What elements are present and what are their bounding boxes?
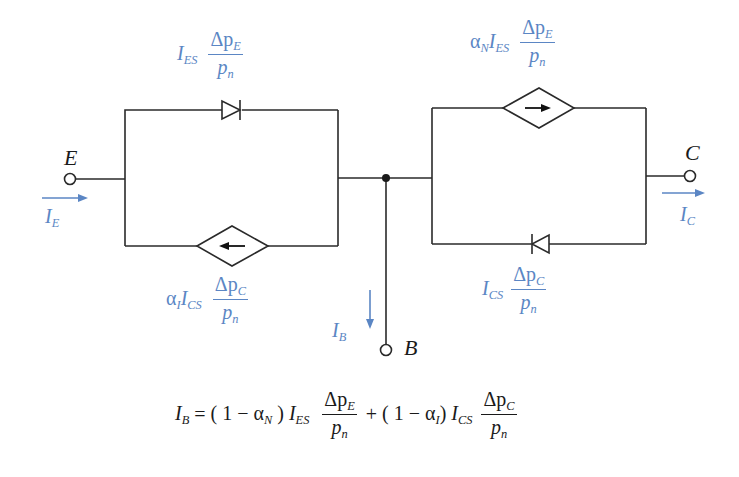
collector-diode-icon [532, 234, 549, 254]
base-terminal[interactable] [381, 345, 392, 356]
emitter-current-label: IE [45, 206, 59, 230]
base-label: B [404, 337, 417, 359]
emitter-source-label: αIICS ΔpC pn [166, 273, 248, 327]
emitter-dependent-source-icon [197, 226, 268, 266]
collector-current-arrow-icon [662, 189, 705, 197]
emitter-diode-label: IES ΔpE pn [177, 28, 243, 82]
emitter-terminal[interactable] [65, 174, 76, 185]
collector-dependent-source-icon [503, 88, 574, 128]
emitter-diode-icon [222, 100, 240, 120]
base-current-arrow-icon [366, 290, 374, 329]
collector-terminal[interactable] [685, 171, 696, 182]
collector-diode-label: ICS ΔpC pn [482, 263, 546, 317]
collector-source-label: αNIES ΔpE pn [470, 16, 555, 70]
left-loop-top-wire [125, 110, 222, 179]
emitter-current-arrow-icon [42, 194, 88, 202]
base-current-label: IB [332, 320, 346, 344]
collector-current-label: IC [680, 204, 695, 228]
emitter-label: E [64, 147, 77, 169]
base-node-dot [382, 174, 390, 182]
base-current-equation: IB = ( 1 − αN ) IES ΔpE pn + ( 1 − αI) I… [175, 388, 517, 442]
collector-label: C [685, 142, 700, 164]
